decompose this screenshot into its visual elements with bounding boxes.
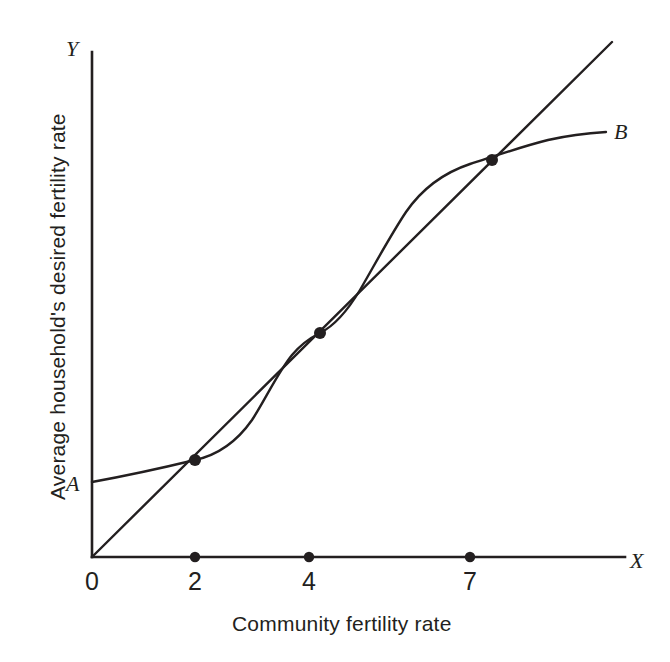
reaction-curve-ab: [92, 132, 606, 482]
x-tick-marker-7: [465, 552, 475, 562]
x-tick-label-0: 0: [77, 567, 107, 596]
y-axis-title: Average household's desired fertility ra…: [46, 113, 70, 500]
forty-five-degree-line: [92, 42, 612, 557]
x-tick-label-7: 7: [455, 567, 485, 596]
equilibrium-point-low: [189, 454, 201, 466]
x-tick-label-4: 4: [294, 567, 324, 596]
x-tick-label-2: 2: [180, 567, 210, 596]
chart-plot-area: [0, 0, 670, 662]
x-tick-marker-2: [190, 552, 200, 562]
equilibrium-point-mid: [314, 327, 326, 339]
y-axis-letter: Y: [66, 36, 78, 62]
curve-label-b: B: [614, 119, 627, 145]
x-tick-marker-4: [304, 552, 314, 562]
x-axis-letter: X: [630, 548, 643, 574]
equilibrium-point-high: [486, 154, 498, 166]
x-axis-title: Community fertility rate: [232, 612, 452, 636]
chart-figure: Y X A B 0 2 4 7 Community fertility rate…: [0, 0, 670, 662]
